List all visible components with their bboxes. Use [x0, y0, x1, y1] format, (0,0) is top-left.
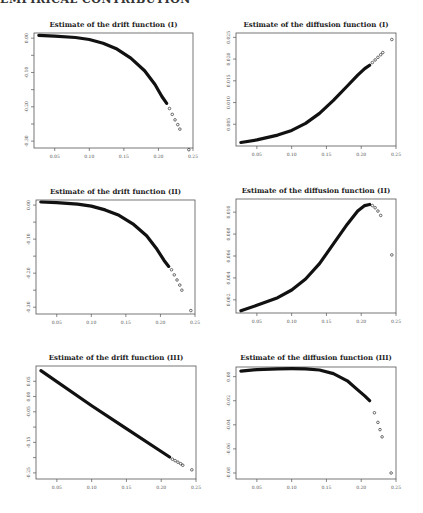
- chart-plot-area: 0.050.100.150.200.250.00-0.02-0.04-0.06-…: [0, 0, 423, 513]
- data-point-marker: [390, 472, 393, 475]
- x-tick-label: 0.05: [252, 485, 262, 490]
- x-tick-label: 0.15: [321, 485, 331, 490]
- plot-frame: [236, 367, 396, 479]
- data-point-marker: [381, 436, 384, 439]
- data-point-marker: [377, 421, 380, 424]
- y-tick-label: -0.06: [226, 443, 231, 455]
- data-point-marker: [373, 411, 376, 414]
- x-tick-label: 0.25: [391, 485, 401, 490]
- y-tick-label: -0.04: [226, 419, 231, 431]
- y-tick-label: -0.02: [226, 395, 231, 407]
- x-tick-label: 0.20: [356, 485, 366, 490]
- x-tick-label: 0.10: [287, 485, 297, 490]
- y-tick-label: 0.00: [226, 371, 231, 381]
- estimate-curve: [241, 369, 370, 401]
- data-point-marker: [379, 428, 382, 431]
- y-tick-label: -0.08: [226, 467, 231, 479]
